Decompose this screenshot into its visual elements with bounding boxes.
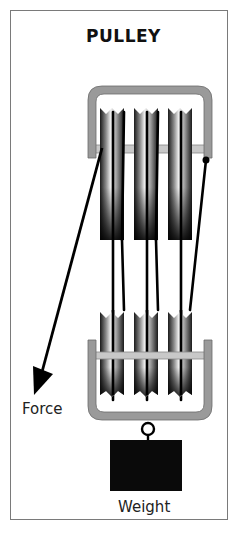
arrowhead-icon [33, 366, 53, 395]
weight-label: Weight [118, 498, 170, 516]
rope-segment-6 [190, 160, 206, 310]
force-label: Force [22, 400, 63, 418]
bottom-axle [94, 352, 206, 359]
rope-segment-2 [122, 240, 124, 310]
clipped-caption [0, 542, 247, 555]
rope-segment-4 [156, 240, 158, 310]
weight-block [110, 440, 182, 491]
hook-ring [142, 423, 154, 435]
bottom-pulley-block [88, 310, 212, 442]
pulley-diagram [0, 0, 247, 555]
top-pulley-block [88, 86, 212, 240]
